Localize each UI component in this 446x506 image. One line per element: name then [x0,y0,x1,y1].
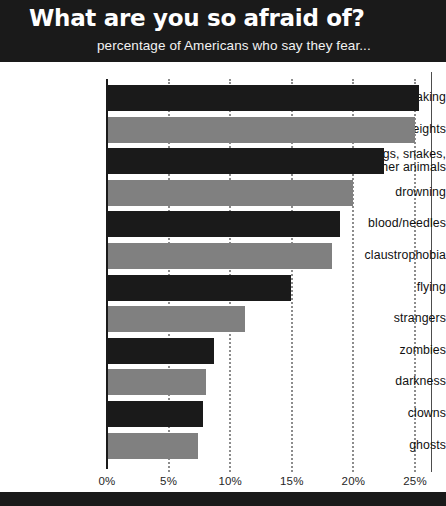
infographic-poster: What are you so afraid of? percentage of… [0,0,446,506]
bar-row: bugs, snakes,or other animals [0,148,446,174]
bar-category-label: drowning [346,180,446,199]
bar-row: darkness [0,369,446,395]
bar-category-label: clowns [346,401,446,420]
bar-row: ghosts [0,433,446,459]
bar [108,180,353,206]
bar-category-label: ghosts [346,433,446,452]
bar-category-label: claustrophobia [346,243,446,262]
bar [108,369,206,395]
x-tick-label-10pct: 10% [218,475,242,487]
bar [108,275,291,301]
bar [108,117,415,143]
bar-row: flying [0,275,446,301]
bar [108,401,203,427]
bar-row: heights [0,117,446,143]
bar [108,85,419,111]
bar-row: clowns [0,401,446,427]
bar [108,433,198,459]
x-tick-label-5pct: 5% [160,475,177,487]
x-tick-label-0pct: 0% [98,475,115,487]
bar-row: public speaking [0,85,446,111]
bar-category-label: flying [346,275,446,294]
page-title: What are you so afraid of? [29,5,365,31]
bar-category-label: strangers [346,306,446,325]
chart-plot-area: 0%5%10%15%20%25% public speakingheightsb… [0,62,446,492]
x-tick-label-25pct: 25% [403,475,427,487]
bar-category-label: darkness [346,369,446,388]
bar-row: drowning [0,180,446,206]
bar-category-label: zombies [346,338,446,357]
bar-row: strangers [0,306,446,332]
bar [108,148,384,174]
bar-row: blood/needles [0,211,446,237]
bar [108,243,332,269]
x-tick-label-20pct: 20% [342,475,366,487]
bar [108,306,245,332]
bar-row: zombies [0,338,446,364]
header-band: What are you so afraid of? percentage of… [0,0,446,62]
bar-row: claustrophobia [0,243,446,269]
bar [108,338,214,364]
page-subtitle: percentage of Americans who say they fea… [97,38,371,53]
chart-frame: 0%5%10%15%20%25% public speakingheightsb… [0,62,446,492]
x-tick-label-15pct: 15% [280,475,304,487]
bar-category-label: blood/needles [346,211,446,230]
bar [108,211,340,237]
footer-band [0,492,446,506]
